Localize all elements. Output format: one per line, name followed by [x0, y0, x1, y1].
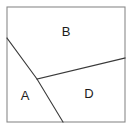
figure-canvas: B A D [0, 0, 133, 132]
geometry-figure: B A D [0, 0, 133, 132]
region-label-a: A [21, 88, 30, 103]
region-label-b: B [62, 24, 71, 39]
region-label-d: D [84, 86, 93, 101]
